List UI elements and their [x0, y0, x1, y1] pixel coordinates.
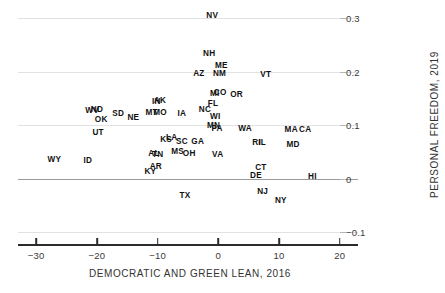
- data-point-ga: GA: [191, 138, 204, 146]
- x-tick-label-4: 10: [274, 250, 285, 261]
- plot-area: NVNHMEAZNMVTMICOORAKINFLWVNDSDMTMOIANCNE…: [18, 10, 358, 235]
- data-point-nh: NH: [203, 50, 215, 58]
- data-point-or: OR: [230, 91, 243, 99]
- data-point-md: MD: [286, 141, 299, 149]
- data-point-hi: HI: [308, 172, 317, 180]
- x-tick-mark-2: [157, 238, 159, 245]
- data-point-tx: TX: [179, 192, 190, 200]
- y-tick-label-1: 0: [346, 173, 351, 184]
- data-point-id: ID: [83, 157, 92, 165]
- x-tick-label-3: 0: [216, 250, 221, 261]
- data-point-ut: UT: [92, 129, 103, 137]
- data-point-co: CO: [214, 88, 227, 96]
- data-point-ne: NE: [127, 114, 139, 122]
- data-point-va: VA: [212, 151, 223, 159]
- scatter-chart: NVNHMEAZNMVTMICOORAKINFLWVNDSDMTMOIANCNE…: [0, 0, 445, 293]
- x-tick-mark-4: [278, 238, 280, 245]
- data-point-sd: SD: [112, 110, 124, 118]
- x-tick-mark-0: [35, 238, 37, 245]
- data-point-ca: CA: [299, 126, 311, 134]
- data-point-il: IL: [258, 139, 266, 147]
- data-point-vt: VT: [260, 71, 271, 79]
- data-point-ma: MA: [285, 126, 298, 134]
- x-axis-line: [18, 244, 358, 246]
- x-tick-label-5: 20: [334, 250, 345, 261]
- data-point-ok: OK: [95, 116, 108, 124]
- data-point-nj: NJ: [257, 187, 268, 195]
- y-axis-title: PERSONAL FREEDOM, 2019: [426, 0, 442, 250]
- data-point-in: IN: [152, 97, 161, 105]
- data-point-wi: WI: [210, 112, 221, 120]
- x-tick-label-2: −10: [149, 250, 166, 261]
- x-tick-mark-1: [96, 238, 98, 245]
- data-point-wy: WY: [48, 156, 62, 164]
- data-point-de: DE: [250, 172, 262, 180]
- data-point-oh: OH: [183, 150, 196, 158]
- gridline-y-0: [18, 179, 358, 180]
- data-point-nd: ND: [91, 106, 103, 114]
- gridline-y-0.2: [18, 72, 358, 73]
- data-point-pa: PA: [212, 125, 223, 133]
- y-tick-label-2: 0.1: [346, 120, 360, 131]
- data-point-nv: NV: [206, 12, 218, 20]
- y-tick-label-0: −0.1: [346, 227, 366, 238]
- x-axis-title: DEMOCRATIC AND GREEN LEAN, 2016: [0, 268, 380, 279]
- gridline-y--0.1: [18, 232, 358, 233]
- data-point-ia: IA: [178, 110, 187, 118]
- x-tick-mark-3: [218, 238, 220, 245]
- data-point-mo: MO: [153, 109, 167, 117]
- data-point-nm: NM: [213, 70, 226, 78]
- y-tick-label-3: 0.2: [346, 66, 360, 77]
- x-tick-label-0: −30: [28, 250, 45, 261]
- data-point-ny: NY: [275, 197, 287, 205]
- data-point-az: AZ: [193, 70, 204, 78]
- x-tick-mark-5: [339, 238, 341, 245]
- data-point-ky: KY: [144, 168, 156, 176]
- data-point-tn: TN: [152, 151, 163, 159]
- data-point-wa: WA: [238, 125, 252, 133]
- y-tick-label-4: 0.3: [346, 13, 360, 24]
- gridline-y-0.3: [18, 18, 358, 19]
- x-tick-label-1: −20: [89, 250, 106, 261]
- data-point-sc: SC: [176, 138, 188, 146]
